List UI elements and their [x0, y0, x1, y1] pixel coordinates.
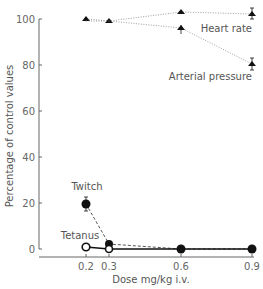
y-tick-0: 0	[29, 244, 35, 255]
y-tick-40: 40	[22, 152, 35, 163]
open-circle-marker-icon	[82, 243, 90, 251]
tetanus-label: Tetanus	[60, 230, 100, 241]
filled-circle-marker-icon	[82, 200, 91, 209]
heart-rate-label: Heart rate	[201, 23, 252, 34]
y-axis-label: Percentage of control values	[4, 65, 15, 208]
y-axis: 100 80 60 40 20 0 Percentage of control …	[4, 14, 42, 255]
y-tick-20: 20	[22, 198, 35, 209]
series-tetanus: Tetanus	[60, 230, 257, 254]
x-axis: 0.2 0.3 0.6 0.9 Dose mg/kg i.v.	[39, 254, 260, 285]
chart: 100 80 60 40 20 0 Percentage of control …	[0, 0, 263, 289]
y-tick-60: 60	[22, 106, 35, 117]
x-tick-0.2: 0.2	[78, 261, 94, 272]
triangle-marker-icon	[177, 9, 185, 14]
arterial-pressure-label: Arterial pressure	[169, 71, 252, 82]
filled-circle-marker-icon	[248, 245, 257, 254]
triangle-marker-icon	[82, 16, 90, 21]
filled-circle-marker-icon	[177, 245, 186, 254]
x-tick-0.6: 0.6	[173, 261, 189, 272]
open-circle-marker-icon	[106, 246, 113, 253]
twitch-label: Twitch	[70, 181, 102, 192]
y-tick-80: 80	[22, 60, 35, 71]
x-tick-0.3: 0.3	[101, 261, 117, 272]
x-axis-label: Dose mg/kg i.v.	[112, 274, 189, 285]
series-heart-rate: Heart rate	[82, 8, 256, 34]
x-tick-0.9: 0.9	[244, 261, 260, 272]
y-tick-100: 100	[16, 14, 35, 25]
